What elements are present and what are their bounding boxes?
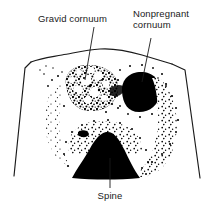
anatomical-figure: Gravid cornuum Nonpregnant cornuum Spine [0,0,219,210]
figure-illustration [0,0,219,210]
label-gravid-cornu: Gravid cornuum [38,13,107,24]
spine-mass [63,118,149,180]
label-nonpregnant-cornu: Nonpregnant cornuum [133,8,189,30]
label-spine: Spine [88,190,132,201]
